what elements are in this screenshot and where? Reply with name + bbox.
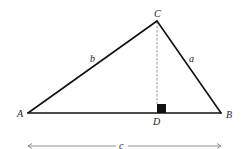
vertex-label-c: C xyxy=(154,8,161,19)
side-label-b: b xyxy=(90,53,95,64)
dimension-label-c: c xyxy=(119,140,124,149)
side-b xyxy=(28,21,157,113)
triangle-svg: C A B D b a c xyxy=(0,0,244,149)
vertex-label-b: B xyxy=(226,109,232,120)
triangle-diagram: C A B D b a c xyxy=(0,0,244,149)
vertex-label-a: A xyxy=(16,108,24,119)
vertex-label-d: D xyxy=(152,116,161,127)
side-label-a: a xyxy=(189,53,194,64)
right-angle-marker xyxy=(157,104,166,113)
side-a xyxy=(157,21,221,113)
